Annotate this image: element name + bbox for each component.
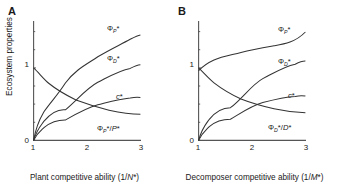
panel-b: B 1 0 1 2 3 bbox=[170, 0, 339, 187]
curve-label-phi-d-b: ΦD* bbox=[278, 58, 291, 66]
plot-area-a bbox=[33, 21, 141, 141]
curve-label-c-a: c* bbox=[116, 93, 123, 101]
x-tick-3-a: 3 bbox=[135, 143, 147, 152]
x-axis-label-a: Plant competitive ability (1/N*) bbox=[0, 173, 169, 182]
x-axis-label-a-tail: *) bbox=[133, 173, 139, 182]
figure-container: A Ecosystem properties 1 0 1 2 3 bbox=[0, 0, 339, 187]
y-tick-1-a: 1 bbox=[17, 60, 29, 69]
curve-label-phi-d-over-d-b: ΦD*/D* bbox=[268, 124, 291, 132]
curve-label-phi-p-over-p-a: ΦP*/P* bbox=[97, 125, 120, 133]
x-tick-3-b: 3 bbox=[300, 143, 312, 152]
x-tick-2-a: 2 bbox=[81, 143, 93, 152]
x-axis-label-a-main: Plant competitive ability (1/ bbox=[30, 173, 127, 182]
curve-phi-d-a bbox=[34, 65, 141, 141]
curve-phi-p-a bbox=[34, 35, 141, 140]
curve-label-phi-d-a: ΦD* bbox=[107, 55, 120, 63]
x-tick-1-a: 1 bbox=[27, 143, 39, 152]
x-tick-2-b: 2 bbox=[246, 143, 258, 152]
x-axis-var-b: M bbox=[311, 173, 318, 182]
curve-label-phi-p-a: ΦP* bbox=[107, 25, 120, 33]
curve-phi-p-over-p-a bbox=[34, 68, 141, 114]
x-tick-1-b: 1 bbox=[192, 143, 204, 152]
curve-label-phi-p-b: ΦP* bbox=[278, 26, 291, 34]
y-axis-label-a: Ecosystem properties bbox=[5, 2, 14, 112]
y-tick-1-b: 1 bbox=[182, 60, 194, 69]
x-axis-label-b: Decomposer competitive ability (1/M*) bbox=[170, 173, 339, 182]
x-axis-label-b-main: Decomposer competitive ability (1/ bbox=[186, 173, 311, 182]
panel-a: A Ecosystem properties 1 0 1 2 3 bbox=[0, 0, 169, 187]
plot-svg-a bbox=[33, 21, 141, 141]
curve-label-c-b: c* bbox=[288, 92, 295, 100]
panel-b-letter: B bbox=[178, 6, 186, 17]
x-axis-label-b-tail: *) bbox=[318, 173, 324, 182]
